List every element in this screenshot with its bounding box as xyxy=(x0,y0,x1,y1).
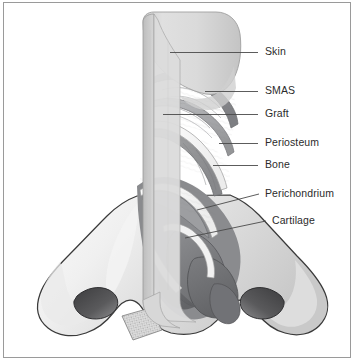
label-smas: SMAS xyxy=(265,85,295,96)
label-periosteum: Periosteum xyxy=(265,137,319,148)
nasal-anatomy-illustration xyxy=(0,0,355,362)
figure-root: Skin SMAS Graft Periosteum Bone Perichon… xyxy=(0,0,355,362)
label-cartilage: Cartilage xyxy=(272,215,315,226)
label-skin: Skin xyxy=(265,46,286,57)
label-graft: Graft xyxy=(265,108,289,119)
label-perichondrium: Perichondrium xyxy=(265,188,334,199)
label-bone: Bone xyxy=(265,159,290,170)
